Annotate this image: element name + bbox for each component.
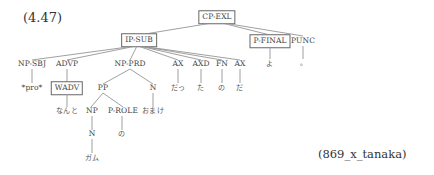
- node-n-gum: N: [89, 130, 96, 138]
- node-punc: PUNC: [291, 37, 315, 45]
- node-np-prd: NP-PRD: [114, 60, 145, 68]
- node-ax: AX: [173, 60, 184, 68]
- node-ip-sub: IP-SUB: [121, 33, 157, 47]
- node-wadv: WADV: [51, 81, 83, 95]
- node-pro: *pro*: [22, 84, 43, 92]
- node-np-sbj: NP-SBJ: [18, 60, 46, 68]
- leaf-nanto: なんと: [56, 108, 77, 115]
- syntax-tree-diagram: (4.47) CP-EXL IP-SUB P-FINAL PUNC NP-SBJ…: [0, 0, 434, 175]
- node-p-role: P-ROLE: [108, 107, 138, 115]
- example-number: (4.47): [23, 10, 62, 25]
- leaf-ta: た: [197, 85, 204, 92]
- node-fn: FN: [216, 60, 228, 68]
- leaf-da: だ: [236, 85, 243, 92]
- node-axd: AXD: [192, 60, 209, 68]
- node-advp: ADVP: [56, 60, 78, 68]
- leaf-yo: よ: [266, 61, 273, 68]
- node-p-final: P-FINAL: [250, 34, 291, 48]
- leaf-datt: だっ: [171, 85, 185, 92]
- source-id: (869_x_tanaka): [318, 147, 406, 161]
- node-ax-final: AX: [235, 60, 246, 68]
- leaf-no-prole: の: [118, 131, 125, 138]
- leaf-omake: おまけ: [142, 108, 163, 115]
- node-np: NP: [86, 107, 98, 115]
- leaf-gamu: ガム: [85, 155, 99, 162]
- node-pp: PP: [98, 84, 108, 92]
- node-n-omake: N: [150, 84, 157, 92]
- node-cp-exl: CP-EXL: [198, 10, 235, 24]
- leaf-period: 。: [300, 60, 307, 67]
- leaf-no-fn: の: [218, 85, 225, 92]
